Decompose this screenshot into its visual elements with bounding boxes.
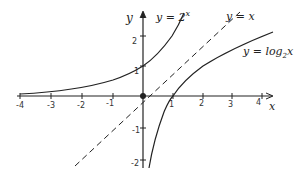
logarithmic-label: y = log2x [242, 45, 294, 60]
function-graph: -4 -3 -2 -1 1 2 3 4 -2 -1 1 2 y x y = 2x… [0, 0, 295, 180]
exponential-curve [20, 13, 184, 94]
x-tick-label: -2 [77, 101, 85, 110]
x-tick-label: 2 [199, 99, 204, 108]
y-axis-arrow-icon [140, 11, 146, 18]
x-tick-label: 4 [256, 98, 261, 107]
origin-marker [140, 93, 146, 99]
y-tick-label: 2 [132, 37, 137, 46]
identity-label: y = x [225, 10, 255, 23]
x-axis-label: x [269, 100, 276, 113]
x-tick-label: -4 [16, 101, 24, 110]
y-axis-label: y [125, 11, 133, 25]
x-tick-label: 3 [228, 100, 233, 109]
exponential-label: y = 2x [155, 9, 190, 24]
x-tick-label: -3 [47, 101, 55, 110]
x-tick-label: -1 [106, 99, 114, 108]
y-tick-label: -2 [131, 159, 139, 168]
identity-line [75, 12, 240, 166]
y-tick-label: -1 [132, 126, 140, 135]
